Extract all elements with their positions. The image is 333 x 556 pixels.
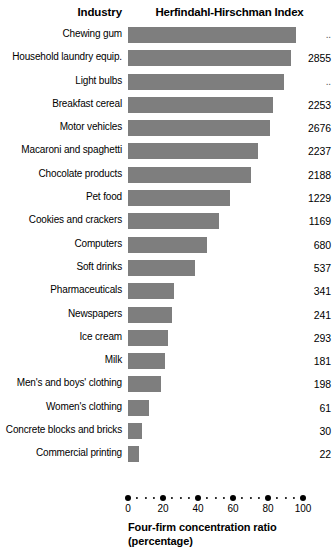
row-industry-label: Concrete blocks and bricks [0, 423, 122, 437]
row-bar-track [128, 190, 303, 206]
chart-row: Commercial printing22 [0, 445, 333, 468]
row-hhi-value: 680 [296, 238, 331, 252]
row-bar [128, 50, 291, 66]
row-bar-track [128, 283, 303, 299]
row-bar-track [128, 167, 303, 183]
chart-row: Macaroni and spaghetti2237 [0, 142, 333, 165]
axis-minor-dot [241, 497, 243, 499]
row-industry-label: Breakfast cereal [0, 97, 122, 111]
axis-minor-dot [136, 497, 138, 499]
axis-minor-dot [179, 497, 181, 499]
chart-row: Chewing gum.. [0, 26, 333, 49]
row-industry-label: Household laundry equip. [0, 50, 122, 64]
row-bar [128, 283, 174, 299]
x-axis-tick-labels: 020406080100 [128, 503, 303, 517]
row-bar-track [128, 307, 303, 323]
chart-row: Light bulbs.. [0, 73, 333, 96]
axis-major-dot [160, 495, 166, 501]
chart-row: Newspapers241 [0, 306, 333, 329]
row-bar [128, 260, 195, 276]
hhi-column-header: Herfindahl-Hirschman Index [128, 6, 331, 18]
row-bar [128, 400, 149, 416]
row-bar [128, 97, 273, 113]
row-hhi-value: 181 [296, 354, 331, 368]
row-industry-label: Macaroni and spaghetti [0, 143, 122, 157]
row-industry-label: Milk [0, 353, 122, 367]
axis-tick-label: 60 [227, 503, 238, 514]
axis-minor-dot [144, 497, 146, 499]
row-bar [128, 353, 165, 369]
row-hhi-value: .. [296, 75, 331, 89]
chart-row: Men's and boys' clothing198 [0, 375, 333, 398]
row-hhi-value: 198 [296, 377, 331, 391]
chart-rows: Chewing gum..Household laundry equip.285… [0, 26, 333, 469]
axis-minor-dot [171, 497, 173, 499]
row-bar-track [128, 50, 303, 66]
row-hhi-value: 30 [296, 424, 331, 438]
axis-minor-dot [284, 497, 286, 499]
row-industry-label: Computers [0, 237, 122, 251]
row-hhi-value: 341 [296, 284, 331, 298]
row-industry-label: Women's clothing [0, 400, 122, 414]
chart-row: Household laundry equip.2855 [0, 49, 333, 72]
axis-minor-dot [293, 497, 295, 499]
x-axis-caption-line2: (percentage) [128, 535, 328, 549]
chart-row: Women's clothing61 [0, 399, 333, 422]
row-hhi-value: 537 [296, 261, 331, 275]
row-bar-track [128, 353, 303, 369]
chart-row: Soft drinks537 [0, 259, 333, 282]
x-axis-caption-line1: Four-firm concentration ratio [128, 521, 328, 535]
row-hhi-value: 2676 [296, 121, 331, 135]
row-bar [128, 446, 139, 462]
row-hhi-value: 2253 [296, 98, 331, 112]
row-industry-label: Pharmaceuticals [0, 283, 122, 297]
chart-row: Pet food1229 [0, 189, 333, 212]
axis-minor-dot [206, 497, 208, 499]
row-bar [128, 74, 284, 90]
row-bar [128, 330, 168, 346]
row-bar [128, 27, 296, 43]
axis-tick-label: 100 [295, 503, 312, 514]
row-industry-label: Pet food [0, 190, 122, 204]
row-bar-track [128, 143, 303, 159]
row-bar [128, 307, 172, 323]
row-bar-track [128, 260, 303, 276]
axis-tick-label: 80 [262, 503, 273, 514]
row-industry-label: Commercial printing [0, 446, 122, 460]
row-bar-track [128, 97, 303, 113]
row-bar [128, 190, 230, 206]
row-hhi-value: 1229 [296, 191, 331, 205]
axis-major-dot [125, 495, 131, 501]
row-bar-track [128, 120, 303, 136]
row-bar-track [128, 400, 303, 416]
chart-row: Concrete blocks and bricks30 [0, 422, 333, 445]
row-industry-label: Motor vehicles [0, 120, 122, 134]
row-hhi-value: 61 [296, 401, 331, 415]
row-bar-track [128, 446, 303, 462]
row-hhi-value: 22 [296, 447, 331, 461]
axis-minor-dot [249, 497, 251, 499]
row-industry-label: Cookies and crackers [0, 213, 122, 227]
row-hhi-value: 2855 [296, 51, 331, 65]
row-bar [128, 213, 219, 229]
chart-row: Cookies and crackers1169 [0, 212, 333, 235]
row-hhi-value: .. [296, 28, 331, 42]
axis-major-dot [230, 495, 236, 501]
row-bar-track [128, 376, 303, 392]
axis-minor-dot [276, 497, 278, 499]
row-bar-track [128, 74, 303, 90]
row-bar [128, 143, 258, 159]
chart-row: Pharmaceuticals341 [0, 282, 333, 305]
chart-row: Milk181 [0, 352, 333, 375]
row-bar-track [128, 423, 303, 439]
axis-minor-dot [153, 497, 155, 499]
row-bar [128, 376, 161, 392]
axis-major-dot [300, 495, 306, 501]
row-bar-track [128, 237, 303, 253]
row-industry-label: Men's and boys' clothing [0, 376, 122, 390]
row-bar [128, 120, 270, 136]
row-industry-label: Light bulbs [0, 74, 122, 88]
column-header-row: Industry Herfindahl-Hirschman Index [0, 6, 333, 24]
row-hhi-value: 2237 [296, 144, 331, 158]
axis-minor-dot [223, 497, 225, 499]
